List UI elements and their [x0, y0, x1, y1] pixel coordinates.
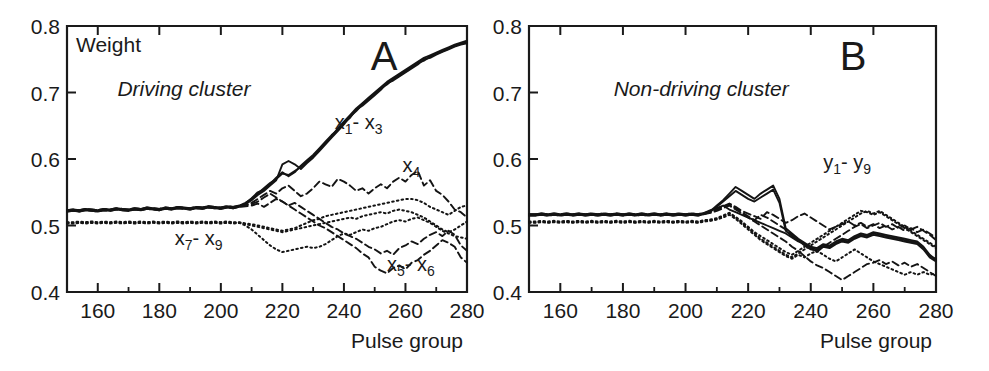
annot-base: x: [402, 154, 412, 176]
panel-letter-a: A: [371, 34, 398, 78]
y-axis-title: Weight: [76, 33, 141, 56]
x-tick-label-260: 260: [856, 299, 891, 322]
annot-sub: 5: [397, 263, 405, 279]
x-tick-label-280: 280: [918, 299, 953, 322]
x-tick-label-160: 160: [80, 299, 115, 322]
annot-sub: 4: [412, 164, 420, 180]
annot-dash: -: [352, 111, 364, 133]
annot-base2: x: [365, 111, 375, 133]
annot-sub2: 9: [863, 161, 871, 177]
figure-container: 1601802002202402602800.40.50.60.70.8ADri…: [0, 0, 989, 371]
annot-dash: -: [841, 151, 853, 173]
panel-letter-b: B: [840, 34, 867, 78]
annot-base: y: [823, 151, 833, 173]
y-tick-label-0.7: 0.7: [493, 82, 522, 105]
annot-dash: -: [192, 227, 204, 249]
x-tick-label-160: 160: [543, 299, 578, 322]
y-tick-label-0.8: 0.8: [493, 15, 522, 38]
x-tick-label-180: 180: [605, 299, 640, 322]
y-tick-label-0.6: 0.6: [493, 148, 522, 171]
annot-base: x: [175, 227, 185, 249]
x-tick-label-260: 260: [388, 299, 423, 322]
x-tick-label-220: 220: [731, 299, 766, 322]
x-axis-title-b: Pulse group: [820, 329, 932, 352]
annot-dash: -: [405, 253, 417, 275]
annot-sub: 7: [185, 237, 193, 253]
x-tick-label-200: 200: [203, 299, 238, 322]
annot-sub2: 3: [375, 121, 383, 137]
y-tick-label-0.4: 0.4: [493, 281, 523, 304]
panel-title-a: Driving cluster: [117, 77, 251, 100]
annot-sub: 1: [833, 161, 841, 177]
x-tick-label-200: 200: [668, 299, 703, 322]
y-tick-label-0.8: 0.8: [31, 15, 60, 38]
x-tick-label-180: 180: [142, 299, 177, 322]
annot-sub2: 6: [427, 263, 435, 279]
annot-sub: 1: [345, 121, 353, 137]
y-tick-label-0.7: 0.7: [31, 82, 60, 105]
y-tick-label-0.5: 0.5: [493, 215, 522, 238]
annot-base2: x: [205, 227, 215, 249]
annot-base: x: [387, 253, 397, 275]
panel-title-b: Non-driving cluster: [614, 77, 790, 100]
y-tick-label-0.4: 0.4: [31, 281, 61, 304]
x-tick-label-220: 220: [265, 299, 300, 322]
annot-base2: x: [417, 253, 427, 275]
y-tick-label-0.5: 0.5: [31, 215, 60, 238]
x-tick-label-240: 240: [326, 299, 361, 322]
x-tick-label-280: 280: [449, 299, 484, 322]
annot-base: x: [335, 111, 345, 133]
x-tick-label-240: 240: [793, 299, 828, 322]
two-panel-line-chart: 1601802002202402602800.40.50.60.70.8ADri…: [0, 0, 989, 371]
annot-base2: y: [853, 151, 863, 173]
y-tick-label-0.6: 0.6: [31, 148, 60, 171]
x-axis-title-a: Pulse group: [351, 329, 463, 352]
annot-sub2: 9: [215, 237, 223, 253]
